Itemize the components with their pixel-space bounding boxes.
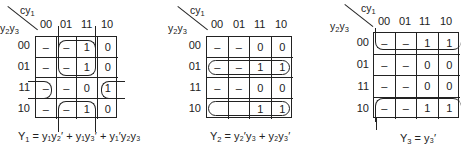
row-header: 00 <box>10 39 30 51</box>
group-wrap-line <box>95 26 96 40</box>
row-header: 11 <box>181 81 201 93</box>
kmap-cell: 0 <box>98 58 119 79</box>
col-header: 11 <box>419 15 430 27</box>
col-variable-label: cy1 <box>20 4 35 18</box>
kmap-cell: 0 <box>77 78 98 99</box>
row-header: 01 <box>349 58 369 70</box>
row-variable-label: y2y3 <box>0 22 19 36</box>
row-header: 10 <box>349 102 369 114</box>
row-header: 10 <box>10 102 30 114</box>
col-header: 00 <box>40 18 52 30</box>
row-header: 00 <box>349 36 369 48</box>
group-wrap-line <box>376 118 377 130</box>
kmap-cell: – <box>229 78 251 99</box>
equation-y2: Y2 = y₂′y₃ + y₂y₃′ <box>210 130 290 144</box>
group-loop <box>208 101 290 116</box>
kmap-cell: – <box>57 78 78 99</box>
group-wrap-line <box>28 81 36 82</box>
col-header: 10 <box>101 18 113 30</box>
kmap-cell: – <box>396 76 418 98</box>
col-header: 10 <box>440 15 452 27</box>
group-wrap-line <box>28 98 36 99</box>
row-header: 00 <box>181 39 201 51</box>
col-variable-label: cy1 <box>190 4 205 18</box>
col-header: 10 <box>275 18 287 30</box>
group-loop <box>375 28 461 50</box>
kmap-cell: – <box>36 58 57 79</box>
kmap-cell: 0 <box>250 78 272 99</box>
row-header: 11 <box>349 80 369 92</box>
col-variable-label: cy1 <box>361 2 376 16</box>
kmap-cell: 0 <box>439 55 461 77</box>
kmap-cell: 0 <box>98 37 119 58</box>
kmap-cell: – <box>36 99 57 120</box>
equation-y3: Y3 = y₃′ <box>400 132 436 146</box>
col-header: 11 <box>254 18 265 30</box>
kmap-cell: 0 <box>272 78 294 99</box>
group-loop <box>58 40 96 54</box>
kmap-cell: – <box>207 37 229 58</box>
kmap-cell: – <box>396 55 418 77</box>
kmap-cell: 0 <box>417 76 439 98</box>
equation-y1: Y1 = y₁y₂′ + y₁y₃′ + y₁′y₂y₃ <box>18 130 140 144</box>
group-loop <box>375 98 461 122</box>
col-header: 11 <box>81 18 92 30</box>
col-header: 00 <box>211 18 223 30</box>
row-header: 01 <box>10 60 30 72</box>
kmap-cell: – <box>207 78 229 99</box>
group-loop <box>101 81 123 99</box>
col-header: 01 <box>60 18 72 30</box>
group-loop <box>58 101 96 119</box>
kmap-cell: – <box>36 37 57 58</box>
kmap-cell: – <box>374 55 396 77</box>
row-header: 01 <box>181 60 201 72</box>
kmap-cell: 0 <box>250 37 272 58</box>
kmap-cell: 0 <box>417 55 439 77</box>
kmap-cell: – <box>374 76 396 98</box>
kmap-cell: 0 <box>98 99 119 120</box>
group-wrap-line <box>116 81 125 82</box>
col-header: 01 <box>233 18 245 30</box>
group-loop <box>208 60 290 75</box>
group-wrap-line <box>116 98 125 99</box>
kmap-cell: 0 <box>272 37 294 58</box>
kmap-cell: 0 <box>439 76 461 98</box>
row-header: 11 <box>10 81 30 93</box>
group-loop <box>30 81 52 99</box>
row-header: 10 <box>181 102 201 114</box>
row-variable-label: y2y3 <box>330 20 349 34</box>
kmap-cell: – <box>229 37 251 58</box>
col-header: 00 <box>378 15 390 27</box>
col-header: 01 <box>399 15 411 27</box>
row-variable-label: y2y3 <box>168 22 187 36</box>
group-wrap-line <box>58 26 59 40</box>
